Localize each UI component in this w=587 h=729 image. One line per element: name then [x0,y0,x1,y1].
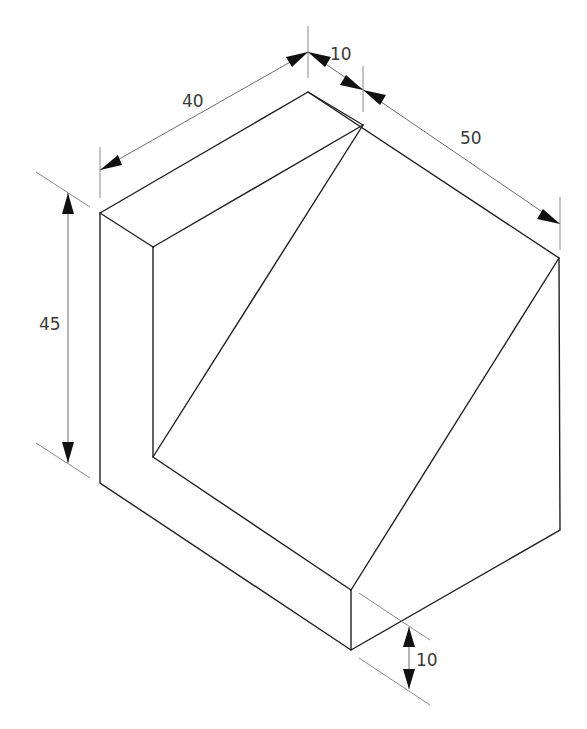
top-notch-edge [308,92,363,125]
top-edge-inner [153,125,363,247]
extension-line [359,593,430,640]
arrowhead-icon [100,155,122,170]
dimension-10-notch: 10 [308,44,560,224]
arrowhead-icon [62,193,74,214]
solid-object [100,92,560,650]
top-edge-left [100,213,153,247]
slope-diagonal-edge [153,125,363,457]
dimension-label-10-notch: 10 [330,44,352,64]
slope-right-edge [351,258,559,590]
extension-line [36,172,90,207]
dimension-10-base: 10 [359,593,438,705]
dimension-label-40: 40 [182,91,204,111]
dimension-45: 45 [36,172,90,478]
inner-floor-edge [153,457,351,590]
arrowhead-icon [62,442,74,463]
dimension-50: 50 [460,128,560,250]
dimension-label-10-base: 10 [416,650,438,670]
arrowhead-icon [340,75,363,90]
dimension-label-50: 50 [460,128,482,148]
dimension-40: 40 [100,26,308,198]
arrowhead-icon [403,669,415,689]
outline-edge [100,92,560,650]
dimension-label-45: 45 [39,314,61,334]
extension-line [36,443,90,478]
arrowhead-icon [403,627,415,647]
isometric-drawing: 40 10 50 45 10 [0,0,587,729]
arrowhead-icon [286,52,308,67]
